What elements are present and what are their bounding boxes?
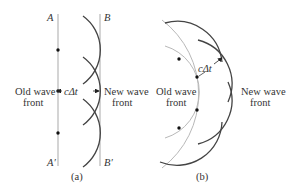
source-dot	[195, 75, 198, 78]
wavelet-arcs	[83, 16, 100, 167]
old-wavefront-label-line2: front	[23, 97, 43, 108]
caption-b: (b)	[196, 171, 209, 183]
wavelet-arc-3	[198, 82, 232, 144]
wavelet-arc-1	[165, 21, 222, 62]
source-dot	[56, 48, 59, 51]
wavelet-arc-bottom	[83, 99, 100, 167]
old-wavefront-label-b-line2: front	[166, 97, 186, 108]
new-wavefront-label-line2: front	[112, 97, 132, 108]
source-dot	[56, 131, 59, 134]
old-wavefront-label-b-line1: Old wave	[156, 86, 197, 97]
distance-label: cΔt	[64, 86, 79, 97]
source-dot	[195, 108, 198, 111]
new-wavefront-label-line1: New wave	[104, 86, 149, 97]
new-wavefront-label-b-line2: front	[250, 97, 270, 108]
distance-label-b: cΔt	[198, 63, 213, 74]
label-A-prime: A′	[46, 157, 56, 168]
label-A: A	[46, 12, 54, 23]
new-wavefront-label-b-line1: New wave	[241, 86, 286, 97]
huygens-diagram: cΔt A B A′ B′ Old wave front New wave fr…	[0, 0, 300, 192]
wavelet-arc-top	[83, 16, 100, 84]
old-wavefront-label-line1: Old wave	[15, 86, 56, 97]
panel-a: cΔt A B A′ B′ Old wave front New wave fr…	[15, 12, 149, 183]
panel-b: cΔt Old wave front New wave front (b)	[156, 20, 286, 183]
wavelet-arc-4	[160, 122, 222, 165]
source-dot	[177, 57, 180, 60]
label-B-prime: B′	[104, 157, 113, 168]
source-dot	[177, 126, 180, 129]
caption-a: (a)	[71, 171, 83, 183]
distance-arrow-b-head	[214, 58, 222, 64]
label-B: B	[104, 12, 111, 23]
